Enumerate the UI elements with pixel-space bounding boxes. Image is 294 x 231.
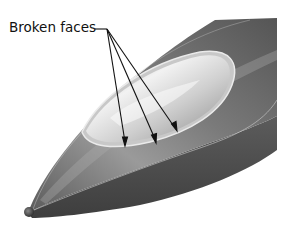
callout-label: Broken faces (9, 19, 96, 35)
nose-tip (24, 207, 34, 217)
